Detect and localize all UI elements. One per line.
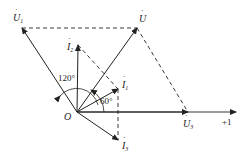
dot-u3: · (185, 111, 188, 120)
dashed-u-u3 (137, 28, 188, 112)
dot-i2: · (68, 34, 71, 43)
dot-u1: · (15, 5, 18, 14)
phasor-diagram: O +1 U · U1 · U3 · I1 · I2 · I3 · 120° 6… (0, 0, 240, 163)
dot-i3: · (123, 133, 126, 142)
angle-label-60: 60° (100, 96, 113, 106)
angle-label-120: 120° (58, 73, 76, 83)
dot-u: · (141, 6, 144, 15)
axis-label: +1 (222, 117, 232, 127)
vector-i2 (77, 45, 78, 112)
origin-label: O (64, 111, 71, 122)
vector-i3 (77, 112, 118, 140)
dot-i1: · (123, 72, 126, 81)
